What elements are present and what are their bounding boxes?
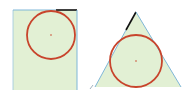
circle-center-dot <box>50 34 52 36</box>
rectangle-figure <box>13 10 93 90</box>
triangle-fill <box>95 12 181 87</box>
rectangle-fill <box>13 10 77 90</box>
triangle-figure <box>95 12 181 87</box>
circle-center-dot <box>135 60 137 62</box>
small-tick-mark <box>90 85 93 89</box>
diagram-canvas <box>0 0 191 99</box>
